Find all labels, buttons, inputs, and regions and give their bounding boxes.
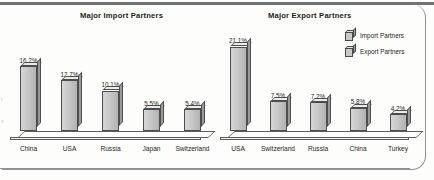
category-label: Russia (90, 145, 131, 152)
bar-column: 10.1% (90, 31, 131, 131)
bar-front-face (310, 102, 327, 131)
bar-3d (230, 47, 247, 131)
category-label: Russia (298, 145, 338, 152)
bar-3d (20, 66, 37, 131)
category-label: USA (218, 145, 258, 152)
bar-3d (102, 91, 119, 131)
bar-column: 5.5% (131, 31, 172, 131)
bar-group-import: 16.2%12.7%10.1%5.5%5.4% (8, 31, 213, 131)
bar-3d (310, 102, 327, 131)
bar-side-face (247, 38, 251, 127)
bar-front-face (143, 109, 160, 131)
chart-floor-import (10, 131, 208, 138)
category-labels-import: ChinaUSARussiaJapanSwitzerland (8, 145, 213, 152)
bar-side-face (287, 92, 291, 127)
bar-front-face (20, 66, 37, 131)
bar-side-face (160, 100, 164, 127)
bar-column: 7.2% (298, 31, 338, 131)
bar-side-face (78, 71, 82, 127)
scan-artifact: t (1, 96, 3, 102)
page-canvas: Major Import Partners Major Export Partn… (0, 0, 434, 180)
bar-column: 5.8% (338, 31, 378, 131)
category-label: Switzerland (258, 145, 298, 152)
scan-artifact: s (1, 118, 3, 124)
category-label: China (8, 145, 49, 152)
bar-side-face (407, 105, 411, 127)
bar-column: 12.7% (49, 31, 90, 131)
bar-front-face (230, 47, 247, 131)
category-label: Switzerland (172, 145, 213, 152)
bar-side-face (327, 93, 331, 127)
chart-title-export: Major Export Partners (268, 11, 352, 20)
bar-group-export: 21.1%7.5%7.2%5.8%4.2% (218, 31, 418, 131)
bar-column: 4.2% (378, 31, 418, 131)
category-label: Turkey (378, 145, 418, 152)
bar-front-face (184, 109, 201, 131)
bar-side-face (367, 99, 371, 127)
figure-frame-bottom-edge (0, 168, 410, 169)
category-label: Japan (131, 145, 172, 152)
category-label: China (338, 145, 378, 152)
bar-3d (143, 109, 160, 131)
bar-side-face (37, 57, 41, 127)
bar-front-face (270, 101, 287, 131)
bar-3d (184, 109, 201, 131)
category-label: USA (49, 145, 90, 152)
bar-front-face (350, 108, 367, 131)
bar-3d (270, 101, 287, 131)
bar-3d (350, 108, 367, 131)
bar-column: 7.5% (258, 31, 298, 131)
bar-front-face (61, 80, 78, 131)
category-labels-export: USASwitzerlandRussiaChinaTurkey (218, 145, 418, 152)
chart-title-import: Major Import Partners (80, 11, 163, 20)
bar-3d (61, 80, 78, 131)
bar-column: 5.4% (172, 31, 213, 131)
bar-front-face (390, 114, 407, 131)
chart-floor-export (220, 131, 416, 138)
bar-3d (390, 114, 407, 131)
chart-import-partners: 16.2%12.7%10.1%5.5%5.4% ChinaUSARussiaJa… (8, 24, 213, 164)
bar-column: 21.1% (218, 31, 258, 131)
bar-side-face (119, 82, 123, 127)
chart-export-partners: 21.1%7.5%7.2%5.8%4.2% USASwitzerlandRuss… (218, 24, 418, 164)
bar-column: 16.2% (8, 31, 49, 131)
bar-front-face (102, 91, 119, 131)
bar-side-face (201, 100, 205, 126)
